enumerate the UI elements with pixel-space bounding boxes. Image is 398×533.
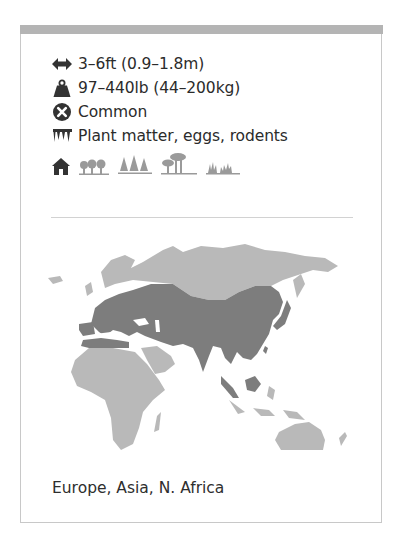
- diet-teeth-icon: [52, 127, 72, 145]
- weight-icon: [52, 79, 72, 97]
- status-x-icon: [52, 103, 72, 121]
- fact-diet: Plant matter, eggs, rodents: [52, 124, 288, 148]
- coniferous-forest-icon: [118, 155, 152, 175]
- section-divider: [51, 217, 353, 218]
- grassland-icon: [206, 161, 240, 175]
- species-fact-card: 3–6ft (0.9–1.8m) 97–440lb (44–200kg) Com…: [20, 25, 382, 523]
- length-arrows-icon: [52, 55, 72, 73]
- fact-weight: 97–440lb (44–200kg): [52, 76, 288, 100]
- length-text: 3–6ft (0.9–1.8m): [78, 55, 204, 73]
- deciduous-forest-icon: [79, 159, 109, 175]
- fact-status: Common: [52, 100, 288, 124]
- fact-list: 3–6ft (0.9–1.8m) 97–440lb (44–200kg) Com…: [52, 52, 288, 175]
- range-map: [33, 240, 373, 450]
- habitat-icons: [52, 149, 288, 175]
- home-icon: [52, 157, 70, 175]
- diet-text: Plant matter, eggs, rodents: [78, 127, 288, 145]
- savanna-icon: [161, 153, 197, 175]
- range-text: Europe, Asia, N. Africa: [52, 479, 224, 497]
- weight-text: 97–440lb (44–200kg): [78, 79, 240, 97]
- fact-length: 3–6ft (0.9–1.8m): [52, 52, 288, 76]
- card-top-bar: [20, 25, 383, 34]
- status-text: Common: [78, 103, 147, 121]
